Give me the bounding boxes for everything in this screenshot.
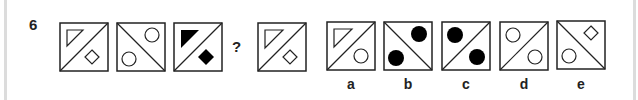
question-number: 6 — [29, 16, 37, 33]
two-circles-tile-icon — [499, 21, 549, 71]
option-d-tile[interactable] — [499, 21, 549, 71]
sequence-tile-2 — [116, 22, 166, 72]
left-border-rule — [4, 0, 7, 100]
triangle-diamond-tile-icon — [257, 22, 307, 72]
diamond-circle-tile-icon — [556, 20, 606, 70]
sequence-tile-1 — [59, 22, 109, 72]
sequence-tile-4 — [257, 22, 307, 72]
option-a-label[interactable]: a — [326, 76, 376, 92]
option-c-label[interactable]: c — [441, 76, 491, 92]
triangle-circle-tile-icon — [326, 21, 376, 71]
option-c-tile[interactable] — [441, 21, 491, 71]
filled-triangle-diamond-tile-icon — [173, 22, 223, 72]
sequence-tile-3 — [173, 22, 223, 72]
option-e-label[interactable]: e — [556, 76, 606, 92]
option-e-tile[interactable] — [556, 20, 606, 70]
option-b-label[interactable]: b — [383, 76, 433, 92]
triangle-diamond-tile-icon — [59, 22, 109, 72]
missing-tile-marker: ? — [232, 38, 241, 55]
filled-circles-tile-icon — [383, 21, 433, 71]
option-a-tile[interactable] — [326, 21, 376, 71]
right-border-rule — [633, 0, 636, 100]
two-circles-tile-icon — [116, 22, 166, 72]
filled-circles-tile-icon — [441, 21, 491, 71]
option-b-tile[interactable] — [383, 21, 433, 71]
option-d-label[interactable]: d — [499, 76, 549, 92]
